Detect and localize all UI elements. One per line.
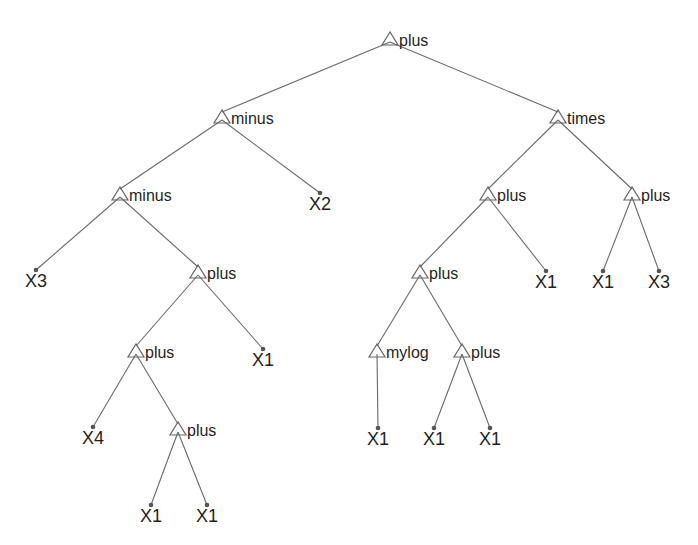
function-node: plus [412, 265, 458, 282]
function-node: times [550, 110, 605, 127]
terminal-node: X3 [648, 269, 670, 292]
triangle-node-icon [382, 32, 398, 45]
tree-edge [377, 354, 378, 428]
node-label: times [567, 110, 605, 127]
terminal-label: X4 [82, 428, 104, 448]
tree-edge [603, 197, 632, 271]
terminal-node: X1 [252, 347, 274, 370]
function-node: plus [624, 187, 670, 204]
tree-edge [488, 197, 546, 271]
terminal-node: X1 [479, 426, 501, 449]
terminal-node: X2 [309, 191, 331, 214]
function-node: plus [454, 344, 500, 361]
terminal-node: X1 [423, 426, 445, 449]
node-label: plus [399, 32, 428, 49]
terminal-node: X1 [535, 269, 557, 292]
tree-edge [93, 354, 136, 427]
terminal-node: X1 [140, 503, 162, 526]
terminal-node: X1 [196, 503, 218, 526]
terminal-label: X1 [535, 272, 557, 292]
node-label: minus [231, 110, 274, 127]
tree-edge [120, 120, 222, 189]
node-label: plus [187, 422, 216, 439]
tree-edge [377, 275, 420, 346]
function-node: minus [112, 187, 172, 204]
tree-edge [420, 197, 488, 267]
terminal-label: X1 [367, 429, 389, 449]
terminal-label: X1 [592, 272, 614, 292]
node-label: plus [471, 344, 500, 361]
function-node: plus [190, 265, 236, 282]
function-node: plus [128, 344, 174, 361]
function-node: plus [480, 187, 526, 204]
terminal-label: X3 [25, 271, 47, 291]
node-label: plus [497, 187, 526, 204]
node-label: plus [145, 344, 174, 361]
terminal-label: X3 [648, 272, 670, 292]
tree-nodes: plusminustimesminusX2plusplusX3plusplusX… [25, 32, 670, 526]
tree-edge [434, 354, 462, 428]
tree-edge [488, 120, 558, 189]
tree-edge [462, 354, 490, 428]
tree-edge [136, 275, 198, 346]
node-label: plus [429, 265, 458, 282]
node-label: plus [207, 265, 236, 282]
terminal-node: X1 [367, 426, 389, 449]
terminal-label: X1 [423, 429, 445, 449]
terminal-label: X1 [252, 350, 274, 370]
tree-edge [558, 120, 632, 189]
node-label: mylog [386, 344, 429, 361]
terminal-node: X1 [592, 269, 614, 292]
function-node: plus [382, 32, 428, 49]
tree-edge [120, 197, 198, 267]
terminal-node: X3 [25, 268, 47, 291]
expression-tree-diagram: plusminustimesminusX2plusplusX3plusplusX… [0, 0, 698, 545]
terminal-label: X1 [140, 506, 162, 526]
tree-edge [36, 197, 120, 270]
tree-edge [222, 120, 320, 193]
tree-edge [420, 275, 462, 346]
function-node: plus [170, 422, 216, 439]
terminal-label: X1 [196, 506, 218, 526]
tree-edges [36, 42, 659, 505]
node-label: minus [129, 187, 172, 204]
terminal-label: X2 [309, 194, 331, 214]
terminal-label: X1 [479, 429, 501, 449]
tree-edge [178, 432, 207, 505]
terminal-node: X4 [82, 425, 104, 448]
tree-edge [222, 42, 390, 112]
tree-edge [198, 275, 263, 349]
function-node: mylog [369, 344, 429, 361]
function-node: minus [214, 110, 274, 127]
tree-edge [390, 42, 558, 112]
tree-edge [632, 197, 659, 271]
tree-edge [136, 354, 178, 424]
tree-edge [151, 432, 178, 505]
node-label: plus [641, 187, 670, 204]
